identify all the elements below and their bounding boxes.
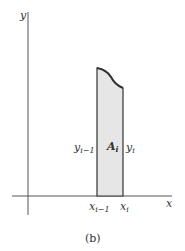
left-x-sub: i−1 [95,205,109,214]
x-axis-label: x [166,198,172,209]
left-height-label: yi−1 [74,142,95,155]
figure-caption: (b) [85,233,101,244]
area-main: A [107,140,116,153]
left-height-sub: i−1 [80,146,94,155]
area-label: Ai [107,141,119,153]
left-x-label: xi−1 [89,201,110,214]
right-x-label: xi [120,201,129,214]
area-sub: i [116,144,119,154]
right-x-sub: i [126,205,129,214]
y-axis-label: y [20,10,26,21]
right-height-label: yi [126,142,135,155]
right-height-sub: i [132,146,135,155]
